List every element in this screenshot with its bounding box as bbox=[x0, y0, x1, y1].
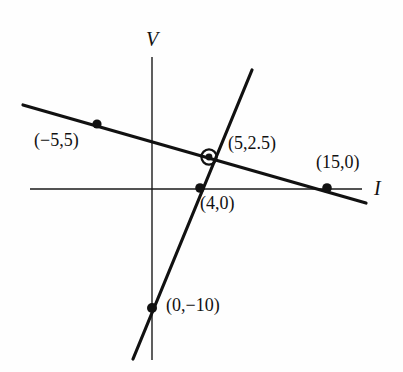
point-label-4-0: (4,0) bbox=[200, 193, 235, 214]
graph-figure: (−5,5) (5,2.5) (15,0) (4,0) (0,−10) V I bbox=[0, 0, 403, 372]
point-marker-0-neg10 bbox=[147, 303, 157, 313]
point-marker-neg5-5 bbox=[92, 119, 101, 128]
point-label-15-0: (15,0) bbox=[316, 152, 360, 173]
point-label-0-neg10: (0,−10) bbox=[166, 295, 220, 316]
v-axis-label: V bbox=[146, 28, 158, 51]
i-axis-label: I bbox=[374, 177, 381, 200]
point-label-5-2p5: (5,2.5) bbox=[228, 133, 276, 154]
point-label-neg5-5: (−5,5) bbox=[34, 130, 79, 151]
graph-canvas bbox=[0, 0, 403, 372]
intersection-dot bbox=[206, 154, 213, 161]
point-marker-15-0 bbox=[322, 183, 332, 193]
point-marker-4-0 bbox=[195, 183, 205, 193]
